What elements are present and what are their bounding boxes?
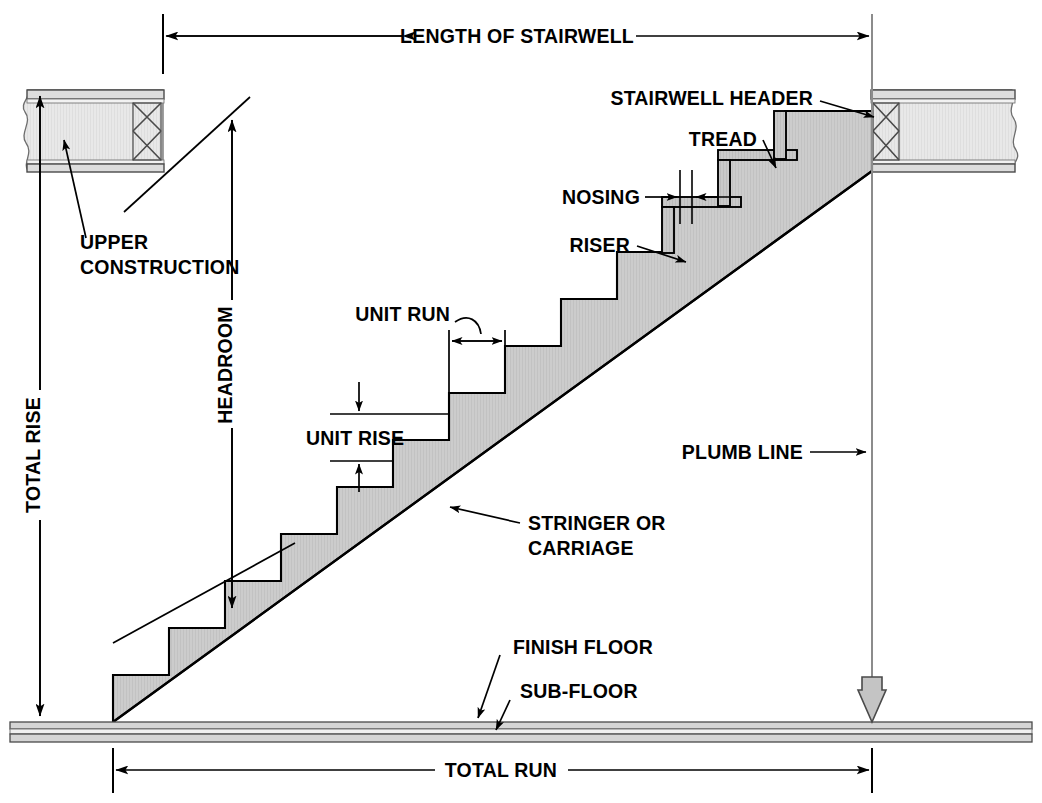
unit-run-label: UNIT RUN — [355, 303, 450, 325]
construction-top-plate — [27, 90, 164, 99]
unit-rise-label: UNIT RISE — [306, 427, 404, 449]
headroom-label: HEADROOM — [214, 306, 236, 424]
total-rise-label: TOTAL RISE — [22, 397, 44, 513]
floor-assembly — [10, 722, 1032, 742]
sub-floor-layer — [10, 734, 1032, 742]
upper-construction-left — [23, 90, 164, 172]
floor-gap-layer — [10, 729, 1032, 734]
riser-board-1 — [662, 207, 674, 253]
riser-board-2 — [718, 160, 730, 206]
sub-floor-label: SUB-FLOOR — [520, 680, 638, 702]
upper-construction-label-1: UPPER — [80, 231, 148, 253]
length-of-stairwell-label: LENGTH OF STAIRWELL — [400, 25, 634, 47]
finish-floor-layer — [10, 722, 1032, 729]
upper-construction-label-2: CONSTRUCTION — [80, 256, 239, 278]
stair-section-svg: LENGTH OF STAIRWELL — [0, 0, 1042, 803]
stringer-label-2: CARRIAGE — [528, 537, 634, 559]
riser-label: RISER — [569, 234, 630, 256]
stringer-label-1: STRINGER OR — [528, 512, 666, 534]
stair-diagram-canvas: LENGTH OF STAIRWELL — [0, 0, 1042, 803]
construction-bottom-plate-right — [871, 164, 1015, 172]
total-run-label: TOTAL RUN — [445, 759, 557, 781]
construction-top-plate-right — [871, 90, 1015, 99]
plumb-line-label: PLUMB LINE — [682, 441, 803, 463]
nosing-label: NOSING — [562, 186, 640, 208]
finish-floor-label: FINISH FLOOR — [513, 636, 653, 658]
stairwell-header-label: STAIRWELL HEADER — [610, 87, 813, 109]
construction-bottom-plate — [27, 164, 164, 172]
tread-label: TREAD — [689, 128, 757, 150]
riser-board-3 — [774, 111, 786, 159]
upper-construction-right — [871, 90, 1018, 172]
